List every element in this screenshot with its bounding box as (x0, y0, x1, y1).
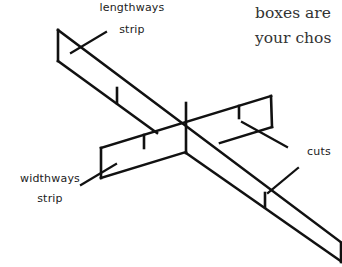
leader-lines (71, 32, 298, 193)
widthways-label-line-2: strip (14, 191, 86, 207)
cuts-label: cuts (301, 144, 337, 160)
widthways-strip-label: widthways strip (14, 171, 86, 207)
lengthways-strip-label: lengthways strip (92, 0, 172, 38)
widthways-strip-far-end-edge (271, 96, 272, 127)
lengthways-label-line-1: lengthways (92, 0, 172, 16)
lengthways-strip-bottom-edge-near (58, 61, 157, 133)
widthways-label-line-1: widthways (14, 171, 86, 187)
lengthways-label-line-2: strip (92, 22, 172, 38)
cuts-leader-line-lower (268, 168, 298, 193)
widthways-strip (101, 96, 272, 178)
lengthways-strip-top-edge (58, 30, 342, 243)
lengthways-strip (58, 30, 342, 262)
strip-cross-diagram (0, 0, 342, 267)
cuts-label-text: cuts (301, 144, 337, 160)
